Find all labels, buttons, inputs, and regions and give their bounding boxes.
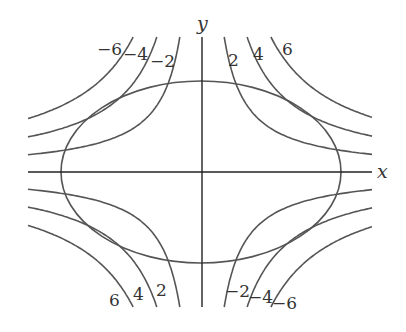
level-label-q2-1: −4 (123, 44, 148, 64)
level-label-q3-0: 6 (109, 290, 120, 310)
level-label-q1-1: 4 (253, 44, 264, 64)
level-label-q1-0: 2 (228, 50, 239, 70)
level-label-q3-2: 2 (156, 280, 167, 300)
x-axis-label: x (377, 160, 388, 182)
level-label-q4-1: −4 (248, 287, 273, 307)
level-curve-q1-2 (224, 37, 372, 154)
level-label-q1-2: 6 (282, 39, 293, 59)
level-label-q4-0: −2 (225, 281, 250, 301)
diagram-canvas: x y 246−6−4−2642−2−4−6 (0, 0, 406, 332)
level-label-q4-2: −6 (272, 293, 297, 313)
level-labels: 246−6−4−2642−2−4−6 (97, 39, 297, 313)
y-axis-label: y (196, 12, 208, 34)
level-label-q2-2: −2 (150, 51, 175, 71)
lagrange-diagram: x y 246−6−4−2642−2−4−6 (0, 0, 406, 332)
level-label-q3-1: 4 (133, 284, 144, 304)
level-label-q2-0: −6 (97, 39, 122, 59)
